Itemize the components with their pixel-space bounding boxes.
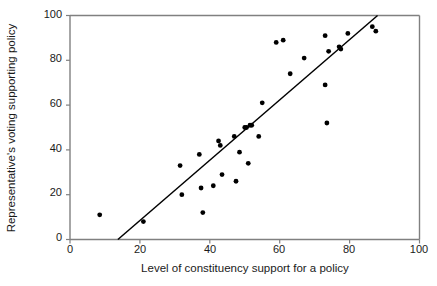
data-point	[345, 31, 350, 36]
data-point	[373, 29, 378, 34]
data-point	[302, 56, 307, 61]
data-point	[249, 123, 254, 128]
data-point	[324, 121, 329, 126]
data-point	[323, 83, 328, 88]
data-point	[199, 186, 204, 191]
data-point	[97, 212, 102, 217]
data-point	[234, 179, 239, 184]
data-point	[288, 71, 293, 76]
data-point	[179, 192, 184, 197]
data-point	[220, 172, 225, 177]
data-point	[323, 33, 328, 38]
data-point	[197, 152, 202, 157]
data-point	[281, 38, 286, 43]
data-point	[232, 134, 237, 139]
data-points	[97, 24, 378, 224]
data-point	[141, 219, 146, 224]
data-point	[256, 134, 261, 139]
scatter-plot-figure: Representative's voting supporting polic…	[0, 0, 437, 286]
data-point	[274, 40, 279, 45]
data-point	[260, 100, 265, 105]
data-point	[218, 143, 223, 148]
data-point	[237, 150, 242, 155]
data-point	[216, 139, 221, 144]
data-point	[338, 47, 343, 52]
plot-canvas	[0, 0, 437, 286]
data-point	[370, 24, 375, 29]
axis-ticks	[66, 16, 420, 244]
data-point	[178, 163, 183, 168]
data-point	[211, 183, 216, 188]
data-point	[326, 49, 331, 54]
data-point	[200, 210, 205, 215]
data-point	[246, 161, 251, 166]
